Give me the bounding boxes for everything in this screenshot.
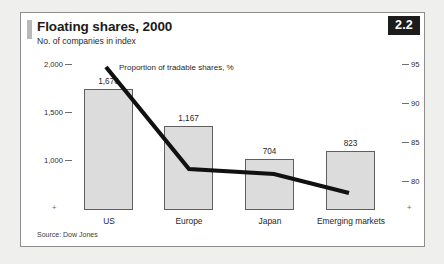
source-note: Source: Dow Jones: [37, 231, 98, 238]
chart-figure: Floating shares, 2000 No. of companies i…: [20, 12, 425, 247]
plot-area: 2,000 1,500 1,000 + 95 90 85 80 + 1,676 …: [21, 13, 426, 248]
tradable-shares-line-series: [21, 13, 426, 248]
line-series-annotation: Proportion of tradable shares, %: [119, 63, 234, 72]
